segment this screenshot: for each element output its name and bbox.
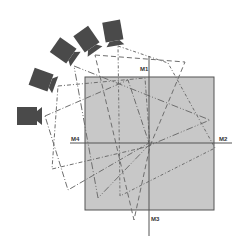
camera-5-icon [102, 20, 124, 48]
label-m1: M1 [140, 66, 149, 72]
camera-1-icon [17, 107, 42, 125]
label-m3: M3 [151, 216, 160, 222]
label-m4: M4 [71, 136, 80, 142]
camera-coverage-diagram: M1 M2 M3 M4 [0, 0, 244, 249]
camera-3-icon [50, 37, 81, 66]
camera-2-icon [29, 68, 59, 93]
label-m2: M2 [219, 136, 228, 142]
